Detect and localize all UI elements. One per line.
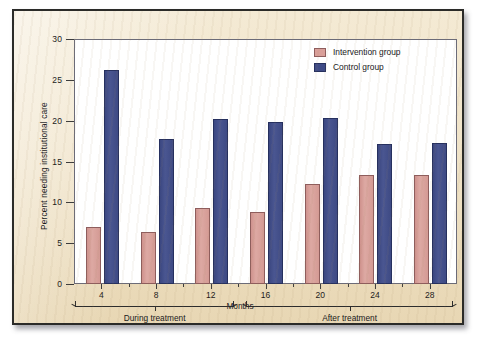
x-tick (430, 284, 431, 289)
bracket-after-treatment-label: After treatment (322, 313, 377, 323)
legend-swatch-intervention (314, 48, 326, 57)
y-tick (66, 202, 74, 203)
x-tick (375, 284, 376, 289)
x-tick (320, 284, 321, 289)
chart-screenshot: Percent needing institutional care 30252… (0, 0, 480, 341)
bar-control-20 (323, 118, 338, 284)
bar-control-16 (268, 122, 283, 284)
bar-control-4 (104, 70, 119, 284)
y-tick-label: 5 (57, 238, 62, 248)
x-tick (156, 284, 157, 289)
x-tick-label: 24 (370, 290, 379, 300)
x-tick-minor (293, 284, 294, 287)
x-tick (266, 284, 267, 289)
y-tick (66, 284, 74, 285)
x-tick-label: 12 (206, 290, 215, 300)
bracket-after-treatment (242, 300, 457, 308)
x-tick-minor (238, 284, 239, 287)
chart-panel: Percent needing institutional care 30252… (12, 9, 464, 325)
y-tick-label: 0 (57, 279, 62, 289)
legend: Intervention group Control group (314, 47, 401, 77)
y-tick-label: 15 (52, 157, 62, 167)
legend-label-control: Control group (333, 62, 384, 72)
y-tick (66, 39, 74, 40)
y-tick-label: 30 (52, 34, 62, 44)
bar-intervention-24 (359, 175, 374, 284)
y-tick (66, 80, 74, 81)
bracket-during-treatment-label: During treatment (124, 313, 186, 323)
x-tick (211, 284, 212, 289)
bar-control-12 (213, 119, 228, 284)
y-axis-title: Percent needing institutional care (39, 51, 49, 281)
legend-swatch-control (314, 63, 326, 72)
x-tick-label: 8 (154, 290, 159, 300)
plot-right-border (456, 39, 457, 284)
y-tick (66, 121, 74, 122)
x-tick (101, 284, 102, 289)
y-tick-label: 10 (52, 197, 62, 207)
y-tick (66, 243, 74, 244)
bar-intervention-4 (86, 227, 101, 284)
y-tick-label: 20 (52, 116, 62, 126)
bar-intervention-20 (305, 184, 320, 284)
x-tick-label: 4 (99, 290, 104, 300)
bar-control-8 (159, 139, 174, 284)
y-tick (66, 162, 74, 163)
x-tick-label: 20 (315, 290, 324, 300)
x-tick-minor (348, 284, 349, 287)
y-tick-label: 25 (52, 75, 62, 85)
x-tick-minor (129, 284, 130, 287)
x-tick-minor (183, 284, 184, 287)
bracket-during-treatment (71, 300, 238, 308)
bar-intervention-28 (414, 175, 429, 284)
bar-control-28 (432, 143, 447, 284)
legend-label-intervention: Intervention group (333, 47, 401, 57)
bar-control-24 (377, 144, 392, 284)
plot-top-border (74, 39, 457, 40)
legend-item-intervention: Intervention group (314, 47, 401, 57)
x-tick-label: 28 (425, 290, 434, 300)
bar-intervention-12 (195, 208, 210, 284)
legend-item-control: Control group (314, 62, 401, 72)
bar-intervention-8 (141, 232, 156, 284)
x-tick-minor (402, 284, 403, 287)
x-tick-label: 16 (261, 290, 270, 300)
bar-intervention-16 (250, 212, 265, 284)
